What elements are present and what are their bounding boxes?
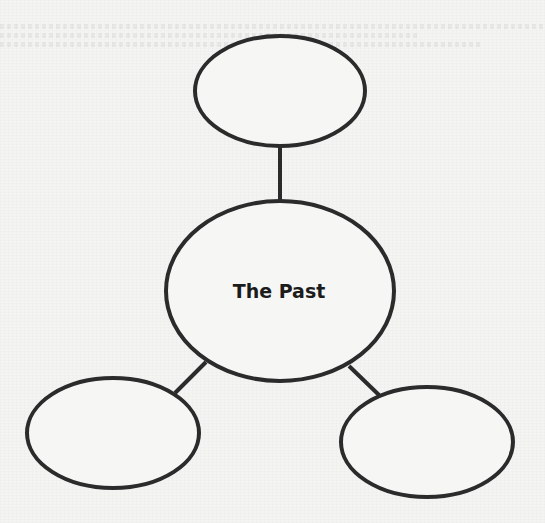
branch-bubble-top[interactable]: [195, 36, 365, 146]
connector-bottom-right: [349, 366, 379, 395]
branch-bubble-bottom-right[interactable]: [341, 387, 513, 497]
center-label: The Past: [233, 280, 326, 302]
branch-bubble-bottom-left[interactable]: [27, 378, 199, 488]
connector-bottom-left: [175, 362, 206, 393]
web-diagram: The Past: [0, 0, 545, 523]
